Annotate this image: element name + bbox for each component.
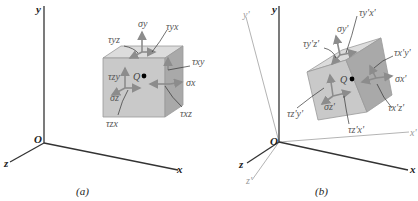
label-sigma-x: σx: [186, 77, 196, 88]
label-sigma-xp: σx': [395, 73, 407, 84]
stress-cube-b: [307, 38, 392, 120]
label-tau-xy: τxy: [192, 56, 205, 67]
yp-axis-label: y': [242, 9, 250, 20]
y-axis-label-b: y: [270, 3, 277, 15]
origin-label-b: O: [270, 135, 278, 147]
x-axis-label-b: x: [409, 163, 416, 175]
point-q-label: Q: [133, 71, 141, 82]
x-axis-label: x: [176, 163, 183, 175]
z-axis-label-b: z: [238, 158, 244, 170]
label-tau-zy: τzy: [108, 71, 120, 82]
xp-axis-label: x': [409, 127, 417, 138]
point-q-dot-b: [350, 77, 355, 82]
point-q-dot: [142, 74, 147, 79]
caption-b: (b): [315, 185, 328, 198]
origin-label: O: [34, 133, 42, 145]
panel-b: y x z y' x' z' O: [238, 3, 417, 198]
label-tau-zpxp: τz'x': [348, 124, 365, 135]
label-tau-xpyp: τx'y': [394, 47, 412, 58]
label-sigma-yp: σy': [337, 23, 349, 34]
label-tau-zpyp: τz'y': [287, 108, 304, 119]
label-sigma-zp: σz': [324, 101, 336, 112]
label-tau-ypzp: τy'z': [303, 38, 320, 49]
caption-a: (a): [76, 185, 89, 198]
zp-axis-label: z': [245, 175, 253, 186]
panel-a: y x z O Q: [3, 3, 205, 198]
label-tau-xz: τxz: [180, 108, 192, 119]
label-tau-zx: τzx: [106, 118, 118, 129]
label-tau-xpzp: τx'z': [388, 102, 405, 113]
point-q-label-b: Q: [340, 74, 348, 85]
stress-diagram: y x z O Q: [0, 0, 418, 201]
label-tau-yz: τyz: [108, 34, 120, 45]
label-sigma-y: σy: [138, 18, 148, 29]
label-tau-ypxp: τy'x': [359, 7, 377, 18]
label-sigma-z: σz: [110, 92, 119, 103]
label-tau-yx: τyx: [166, 21, 179, 32]
z-axis-label: z: [3, 157, 9, 169]
y-axis-label: y: [34, 3, 41, 15]
